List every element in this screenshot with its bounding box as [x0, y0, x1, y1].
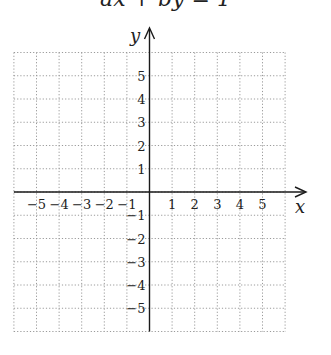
y-axis-label: y	[129, 25, 141, 46]
x-tick-label: 1	[168, 197, 176, 212]
x-tick-label: −4	[50, 197, 69, 212]
y-tick-label: 3	[137, 115, 145, 130]
y-tick-label: 1	[137, 162, 145, 177]
x-tick-label: −2	[95, 197, 114, 212]
y-tick-label: −5	[126, 301, 145, 316]
y-tick-label: 5	[137, 69, 145, 84]
y-tick-label: −4	[126, 278, 145, 293]
y-tick-label: −3	[126, 255, 145, 270]
tick-labels: xy−5−4−3−2−11234554321−1−2−3−4−5	[27, 25, 305, 316]
x-tick-label: 3	[213, 197, 221, 212]
coordinate-plane: xy−5−4−3−2−11234554321−1−2−3−4−5	[0, 0, 331, 355]
x-tick-label: 2	[191, 197, 199, 212]
y-tick-label: 2	[137, 139, 145, 154]
x-tick-label: −3	[72, 197, 91, 212]
x-axis-label: x	[295, 196, 305, 217]
x-tick-label: 4	[236, 197, 244, 212]
x-tick-label: 5	[258, 197, 266, 212]
axes	[14, 28, 306, 332]
y-tick-label: −2	[126, 232, 145, 247]
y-tick-label: 4	[137, 92, 145, 107]
y-tick-label: −1	[126, 208, 145, 223]
x-tick-label: −5	[27, 197, 46, 212]
